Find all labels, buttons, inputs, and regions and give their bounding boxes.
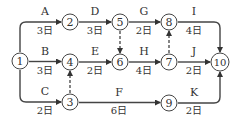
activity-D-name: D: [91, 6, 100, 17]
activity-E-duration: 2日: [87, 66, 103, 76]
activity-G-name: G: [140, 6, 149, 17]
activity-G-duration: 2日: [136, 26, 152, 36]
node-7: 7: [161, 54, 178, 71]
activity-H-name: H: [139, 46, 149, 57]
node-8: 8: [161, 14, 178, 31]
activity-J-name: J: [192, 46, 196, 57]
node-2: 2: [62, 14, 79, 31]
node-5: 5: [112, 14, 129, 31]
node-9: 9: [161, 95, 178, 112]
activity-B-name: B: [41, 46, 49, 57]
arrow-K: [178, 72, 220, 103]
activity-J-duration: 2日: [186, 66, 202, 76]
activity-D-duration: 3日: [87, 26, 103, 36]
activity-C-name: C: [41, 86, 49, 97]
activity-K-duration: 2日: [186, 106, 202, 116]
activity-F-name: F: [115, 87, 123, 98]
activity-H-duration: 4日: [136, 66, 152, 76]
node-4: 4: [62, 54, 79, 71]
activity-A-name: A: [41, 6, 49, 17]
node-3: 3: [62, 94, 79, 111]
activity-I-duration: 4日: [186, 26, 202, 36]
activity-K-name: K: [190, 87, 198, 98]
node-10: 10: [211, 53, 230, 72]
node-1: 1: [12, 53, 29, 70]
activity-I-name: I: [192, 6, 196, 17]
node-6: 6: [112, 54, 129, 71]
activity-B-duration: 3日: [37, 66, 53, 76]
activity-C-duration: 2日: [37, 106, 53, 116]
activity-A-duration: 3日: [37, 26, 53, 36]
activity-F-duration: 6日: [111, 106, 127, 116]
activity-E-name: E: [91, 46, 99, 57]
